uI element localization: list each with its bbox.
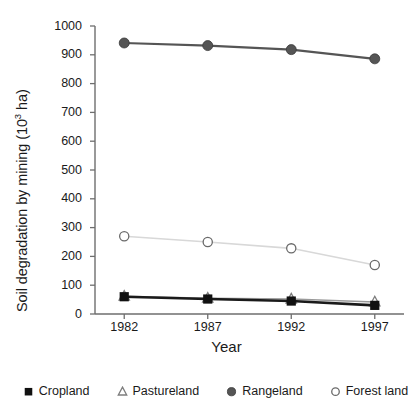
- marker-filled-square: [287, 296, 296, 305]
- legend-marker-open-circle-icon: [330, 386, 341, 397]
- chart-figure: Soil degradation by mining (103 ha) 0100…: [0, 0, 419, 415]
- legend-label: Forest land: [346, 384, 409, 398]
- marker-open-circle: [287, 244, 296, 253]
- marker-filled-circle: [286, 45, 296, 55]
- legend-marker-filled-circle-icon: [226, 386, 237, 397]
- marker-filled-square: [203, 294, 212, 303]
- marker-open-triangle: [118, 387, 126, 395]
- series-forest-land: [120, 232, 380, 270]
- marker-filled-circle: [119, 38, 129, 48]
- legend-label: Rangeland: [242, 384, 302, 398]
- series-line: [124, 43, 375, 59]
- series-rangeland: [119, 38, 380, 64]
- marker-open-circle: [203, 237, 212, 246]
- marker-filled-circle: [370, 54, 380, 64]
- legend-marker-filled-square-icon: [23, 386, 34, 397]
- x-axis-label-text: Year: [211, 338, 241, 355]
- legend-item[interactable]: Rangeland: [226, 384, 302, 398]
- legend-label: Cropland: [39, 384, 90, 398]
- marker-filled-circle: [203, 41, 213, 51]
- marker-open-circle: [370, 260, 379, 269]
- legend-item[interactable]: Pastureland: [117, 384, 200, 398]
- series-line: [124, 236, 375, 265]
- legend-marker-open-triangle-icon: [117, 386, 128, 397]
- marker-open-circle: [331, 387, 339, 395]
- legend-label: Pastureland: [133, 384, 200, 398]
- marker-open-circle: [120, 232, 129, 241]
- marker-filled-square: [24, 387, 32, 395]
- x-axis-label: Year: [0, 338, 419, 355]
- marker-filled-circle: [228, 387, 236, 395]
- marker-filled-square: [120, 292, 129, 301]
- marker-filled-square: [370, 301, 379, 310]
- legend-item[interactable]: Cropland: [23, 384, 90, 398]
- legend-item[interactable]: Forest land: [330, 384, 409, 398]
- chart-legend: CroplandPasturelandRangelandForest land: [0, 380, 419, 402]
